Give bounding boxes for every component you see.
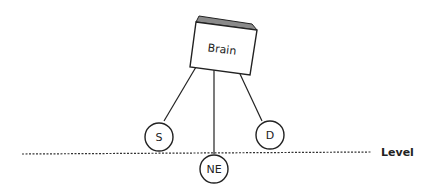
node-d: D [256,121,284,149]
node-ne: NE [200,155,228,183]
level-line [22,152,372,154]
node-d-label: D [266,129,274,142]
node-ne-label: NE [206,163,221,176]
node-s: S [145,123,173,151]
string-to-d [240,74,262,121]
diagram-canvas: Level Brain S NE D [0,0,426,193]
node-s-label: S [156,131,163,144]
brain-box: Brain [190,16,257,75]
string-to-s [164,67,196,121]
level-label: Level [381,146,414,159]
